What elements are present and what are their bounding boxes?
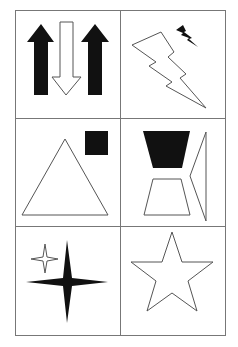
four-point-star-filled-icon [26, 240, 108, 323]
square-filled-icon [85, 131, 108, 155]
trapezoid-outline-icon [144, 179, 190, 215]
arrow-down-outline-icon [52, 22, 81, 95]
shape-matrix-figure [0, 0, 238, 347]
arrow-up-filled-icon [81, 24, 109, 95]
side-wedge-outline-icon [190, 132, 206, 221]
cell-r3-c1 [26, 240, 108, 323]
cell-r2-c1 [22, 131, 108, 215]
lightning-filled-icon [176, 25, 198, 47]
trapezoid-filled-icon [143, 131, 190, 168]
cell-r1-c1 [27, 22, 109, 95]
cell-r2-c2 [143, 131, 206, 221]
cell-r3-c2 [131, 232, 213, 311]
four-point-star-outline-icon [31, 244, 58, 273]
five-point-star-outline-icon [131, 232, 213, 311]
lightning-outline-icon [132, 32, 206, 108]
cell-r1-c2 [132, 25, 206, 108]
arrow-up-filled-icon [27, 24, 54, 95]
